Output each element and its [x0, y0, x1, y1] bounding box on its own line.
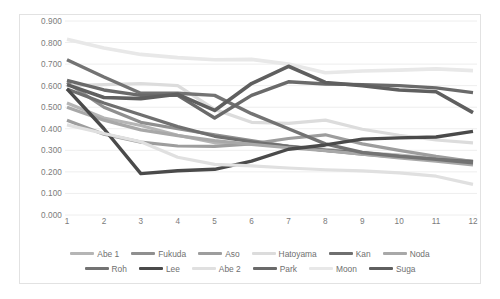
legend-item[interactable]: Park — [253, 264, 297, 274]
legend-item-label: Hatoyama — [279, 249, 317, 259]
legend-swatch-icon — [192, 267, 216, 270]
x-axis-tick-label: 7 — [286, 217, 291, 226]
x-axis-tick-label: 2 — [102, 217, 107, 226]
legend-swatch-icon — [139, 267, 163, 270]
legend-item-label: Kan — [356, 249, 371, 259]
legend-item[interactable]: Suga — [369, 264, 416, 274]
legend-item-label: Abe 1 — [97, 249, 119, 259]
legend-swatch-icon — [329, 252, 353, 255]
x-axis-tick-label: 5 — [212, 217, 217, 226]
legend-item[interactable]: Abe 1 — [70, 249, 119, 259]
legend-swatch-icon — [309, 267, 333, 271]
legend-item-label: Abe 2 — [219, 264, 241, 274]
legend-item-label: Park — [280, 264, 297, 274]
x-axis-tick-label: 1 — [65, 217, 70, 226]
legend-item-label: Lee — [166, 264, 180, 274]
y-axis-tick-label: 0.400 — [41, 124, 62, 133]
y-axis: 0.9000.8000.7000.6000.5000.4000.3000.200… — [20, 15, 66, 231]
y-axis-tick-label: 0.500 — [41, 103, 62, 112]
legend-item[interactable]: Moon — [309, 264, 357, 274]
x-axis-tick-label: 10 — [395, 217, 404, 226]
y-axis-tick-label: 0.800 — [41, 38, 62, 47]
legend-item-label: Roh — [112, 264, 127, 274]
y-axis-tick-label: 0.900 — [41, 17, 62, 26]
line-chart-svg — [67, 21, 473, 215]
legend-item-label: Aso — [225, 249, 239, 259]
legend-item[interactable]: Hatoyama — [252, 249, 317, 259]
x-axis-tick-label: 12 — [468, 217, 477, 226]
legend-row-1: Abe 1FukudaAsoHatoyamaKanNoda — [64, 249, 435, 259]
x-axis: 123456789101112 — [67, 217, 473, 233]
legend-item[interactable]: Noda — [383, 249, 430, 259]
y-axis-tick-label: 0.300 — [41, 146, 62, 155]
x-axis-tick-label: 3 — [139, 217, 144, 226]
x-axis-tick-label: 4 — [175, 217, 180, 226]
y-axis-tick-label: 0.200 — [41, 167, 62, 176]
y-axis-tick-label: 0.100 — [41, 189, 62, 198]
legend-swatch-icon — [70, 252, 94, 255]
legend-item-label: Moon — [336, 264, 357, 274]
x-axis-tick-label: 8 — [323, 217, 328, 226]
series-line — [67, 89, 473, 174]
legend-item-label: Noda — [410, 249, 430, 259]
legend-item[interactable]: Roh — [85, 264, 127, 274]
chart-legend: Abe 1FukudaAsoHatoyamaKanNoda RohLeeAbe … — [20, 239, 480, 283]
legend-swatch-icon — [252, 252, 276, 255]
legend-swatch-icon — [383, 252, 407, 255]
legend-item[interactable]: Lee — [139, 264, 180, 274]
legend-row-2: RohLeeAbe 2ParkMoonSuga — [79, 264, 422, 274]
legend-item-label: Fukuda — [158, 249, 186, 259]
plot-area — [67, 21, 473, 215]
legend-swatch-icon — [85, 267, 109, 270]
y-axis-tick-label: 0.000 — [41, 211, 62, 220]
x-axis-tick-label: 11 — [432, 217, 441, 226]
legend-swatch-icon — [369, 267, 393, 271]
plot-region: 0.9000.8000.7000.6000.5000.4000.3000.200… — [20, 15, 482, 231]
y-axis-tick-label: 0.600 — [41, 81, 62, 90]
x-axis-tick-label: 9 — [360, 217, 365, 226]
legend-item-label: Suga — [396, 264, 416, 274]
legend-item[interactable]: Kan — [329, 249, 371, 259]
legend-swatch-icon — [198, 252, 222, 255]
legend-swatch-icon — [253, 267, 277, 270]
legend-swatch-icon — [131, 252, 155, 255]
x-axis-tick-label: 6 — [249, 217, 254, 226]
legend-item[interactable]: Aso — [198, 249, 239, 259]
chart-container: 0.9000.8000.7000.6000.5000.4000.3000.200… — [19, 14, 481, 284]
series-line — [67, 39, 473, 72]
y-axis-tick-label: 0.700 — [41, 60, 62, 69]
legend-item[interactable]: Abe 2 — [192, 264, 241, 274]
legend-item[interactable]: Fukuda — [131, 249, 186, 259]
